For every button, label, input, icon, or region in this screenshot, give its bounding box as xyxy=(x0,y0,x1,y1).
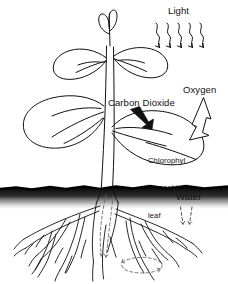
label-oxygen: Oxygen xyxy=(183,85,216,95)
photosynthesis-diagram: Light Oxygen Carbon Dioxide Water Chloro… xyxy=(0,0,228,284)
diagram-canvas xyxy=(0,0,228,284)
label-light: Light xyxy=(168,6,189,16)
label-chlorophyl-line2: present in xyxy=(148,183,185,192)
label-chlorophyl-block: Chlorophyl present in leaf xyxy=(148,137,185,239)
label-chlorophyl-line3: leaf xyxy=(148,211,185,220)
label-chlorophyl-line1: Chlorophyl xyxy=(148,156,185,165)
label-carbon-dioxide: Carbon Dioxide xyxy=(108,98,175,108)
